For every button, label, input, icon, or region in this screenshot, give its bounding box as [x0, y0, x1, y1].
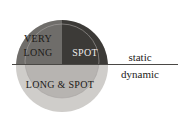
region-label-very-long-line1: VERY	[24, 33, 52, 44]
diagram-canvas: VERY LONG SPOT LONG & SPOT static dynami…	[0, 0, 178, 130]
region-label-long-and-spot: LONG & SPOT	[26, 79, 94, 90]
axis-label-dynamic: dynamic	[121, 68, 159, 80]
axis-label-static: static	[128, 51, 151, 63]
region-label-spot: SPOT	[72, 47, 98, 58]
venn-diagram-svg: VERY LONG SPOT LONG & SPOT static dynami…	[0, 0, 178, 130]
region-label-very-long-line2: LONG	[24, 47, 53, 58]
